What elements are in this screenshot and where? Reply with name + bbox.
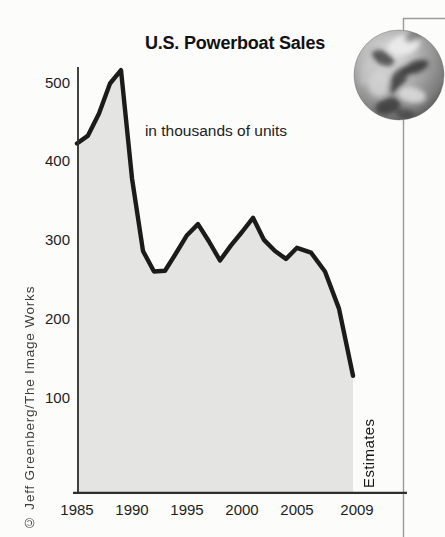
estimates-label: Estimates xyxy=(360,400,378,488)
y-axis-tick-400: 400 xyxy=(24,152,70,170)
chart-subtitle: in thousands of units xyxy=(116,122,316,140)
x-axis-tick-2005: 2005 xyxy=(272,501,322,519)
x-axis-tick-1990: 1990 xyxy=(107,501,157,519)
y-axis-tick-300: 300 xyxy=(24,231,70,249)
x-axis-tick-1985: 1985 xyxy=(52,501,102,519)
x-axis-tick-1995: 1995 xyxy=(162,501,212,519)
photo-credit: © Jeff Greenberg/The Image Works xyxy=(22,266,39,530)
x-axis-tick-2009: 2009 xyxy=(332,501,382,519)
x-axis-tick-2000: 2000 xyxy=(217,501,267,519)
chart-title: U.S. Powerboat Sales xyxy=(115,33,355,54)
y-axis-tick-500: 500 xyxy=(24,74,70,92)
globe-icon xyxy=(354,27,444,120)
powerboat-sales-figure: U.S. Powerboat Sales in thousands of uni… xyxy=(0,0,445,537)
